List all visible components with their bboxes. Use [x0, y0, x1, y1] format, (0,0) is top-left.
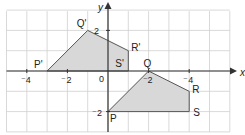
y-axis-arrow-icon	[105, 2, 112, 9]
vertex-label: R'	[131, 42, 140, 53]
vertex-label: R	[192, 84, 199, 95]
x-tick-label: ⁻4	[21, 75, 31, 85]
vertex-label: P'	[34, 59, 43, 70]
vertex-label: S'	[115, 58, 124, 69]
x-axis-label: x	[239, 67, 245, 78]
x-axis-arrow-icon	[230, 68, 237, 75]
coordinate-grid-diagram: xy0⁻4⁻2⁻2⁻42⁻2P'Q'R'S'PQRS	[0, 0, 245, 135]
x-tick-label: ⁻2	[61, 75, 71, 85]
y-axis-label: y	[97, 2, 104, 13]
vertex-label: Q'	[77, 18, 87, 29]
vertex-label: S	[193, 107, 200, 118]
y-tick-label: 2	[94, 26, 99, 36]
y-tick-label: ⁻2	[92, 108, 102, 118]
diagram-canvas: xy0⁻4⁻2⁻2⁻42⁻2P'Q'R'S'PQRS	[0, 0, 245, 135]
vertex-label: P	[110, 113, 117, 124]
x-tick-label: ⁻2	[143, 75, 153, 85]
vertex-label: Q	[144, 58, 152, 69]
origin-label: 0	[99, 74, 104, 84]
